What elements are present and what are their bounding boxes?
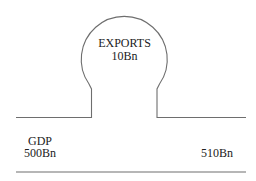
exports-value: 10Bn (111, 49, 137, 63)
exports-label: EXPORTS (98, 36, 151, 50)
gdp-value: 500Bn (24, 146, 56, 160)
gdp-exports-diagram: EXPORTS 10Bn GDP 500Bn 510Bn (0, 0, 256, 181)
top-outline-with-bulb (16, 16, 246, 117)
total-value: 510Bn (201, 146, 233, 160)
